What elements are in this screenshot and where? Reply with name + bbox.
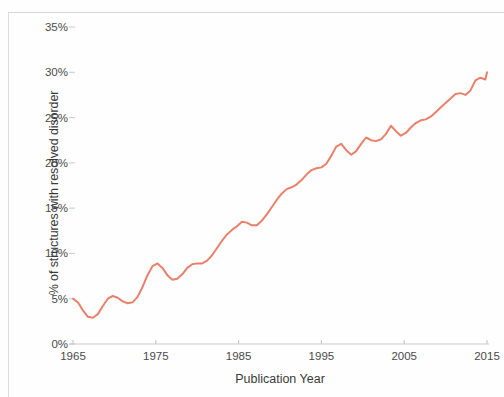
line-chart-plot-area xyxy=(0,0,504,397)
axis-tick-marks xyxy=(69,27,487,344)
x-axis-title: Publication Year xyxy=(73,372,487,386)
x-axis-tick-label: 1995 xyxy=(291,350,351,362)
x-axis-tick-label: 2005 xyxy=(374,350,434,362)
x-axis-tick-label: 1985 xyxy=(209,350,269,362)
chart-figure: 0%5%10%15%20%25%30%35% 19651975198519952… xyxy=(0,0,504,397)
x-axis-tick-label: 2015 xyxy=(457,350,504,362)
x-axis-tick-labels: 196519751985199520052015 xyxy=(0,350,504,368)
y-axis-title: % of structures with resolved disorder xyxy=(47,33,61,353)
data-series-lines xyxy=(73,72,487,317)
y-axis-title-container: % of structures with resolved disorder xyxy=(14,0,40,372)
x-axis-tick-label: 1975 xyxy=(126,350,186,362)
